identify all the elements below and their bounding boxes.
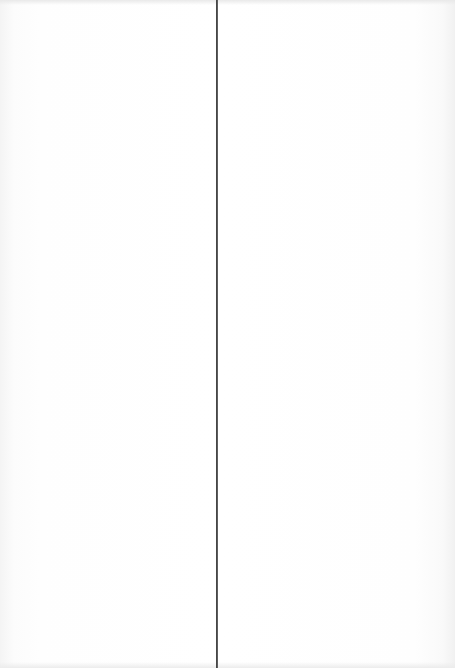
top-scan-edge — [0, 0, 455, 5]
left-page — [0, 0, 216, 668]
bottom-scan-edge — [0, 662, 455, 668]
center-gutter-line — [216, 0, 218, 668]
right-page — [218, 0, 455, 668]
